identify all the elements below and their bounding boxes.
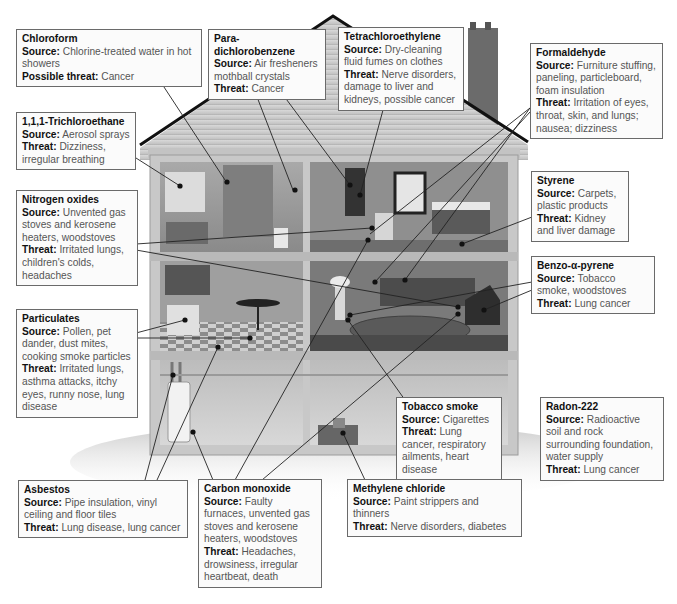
callout-title: Particulates <box>22 313 132 326</box>
callout-particulates: Particulates Source: Pollen, pet dander,… <box>16 309 138 418</box>
callout-title: Benzo-α-pyrene <box>537 260 649 273</box>
callout-title: Asbestos <box>24 484 182 497</box>
callout-title: Tobacco smoke <box>402 401 496 414</box>
callout-formaldehyde: Formaldehyde Source: Furniture stuffing,… <box>530 43 663 139</box>
callout-nitrogen-oxides: Nitrogen oxides Source: Unvented gas sto… <box>16 190 138 286</box>
callout-chloroform: Chloroform Source: Chlorine-treated wate… <box>16 29 202 87</box>
callout-title: Radon-222 <box>546 401 658 414</box>
callout-styrene: Styrene Source: Carpets, plastic product… <box>531 171 629 242</box>
callout-title: Formaldehyde <box>536 47 657 60</box>
callout-title: Carbon monoxide <box>204 483 316 496</box>
indoor-air-pollution-diagram: Chloroform Source: Chlorine-treated wate… <box>0 0 677 604</box>
callout-methylene-chloride: Methylene chloride Source: Paint strippe… <box>347 479 522 537</box>
callout-tobacco-smoke: Tobacco smoke Source: Cigarettes Threat:… <box>396 397 502 481</box>
callout-title: Styrene <box>537 175 623 188</box>
callout-trichloroethane: 1,1,1-Trichloroethane Source: Aerosol sp… <box>16 112 136 170</box>
callout-title: Chloroform <box>22 33 196 46</box>
callout-benzo-a-pyrene: Benzo-α-pyrene Source: Tobacco smoke, wo… <box>531 256 655 314</box>
callout-title: 1,1,1-Trichloroethane <box>22 116 130 129</box>
callout-title: Nitrogen oxides <box>22 194 132 207</box>
callout-radon-222: Radon-222 Source: Radioactive soil and r… <box>540 397 664 481</box>
callout-para-dichlorobenzene: Para-dichlorobenzene Source: Air freshen… <box>208 29 326 100</box>
callout-carbon-monoxide: Carbon monoxide Source: Faulty furnaces,… <box>198 479 322 588</box>
callout-asbestos: Asbestos Source: Pipe insulation, vinyl … <box>18 480 188 538</box>
callout-title: Tetrachloroethylene <box>344 31 458 44</box>
callout-title: Para-dichlorobenzene <box>214 33 320 58</box>
callout-title: Methylene chloride <box>353 483 516 496</box>
callout-tetrachloroethylene: Tetrachloroethylene Source: Dry-cleaning… <box>338 27 464 111</box>
